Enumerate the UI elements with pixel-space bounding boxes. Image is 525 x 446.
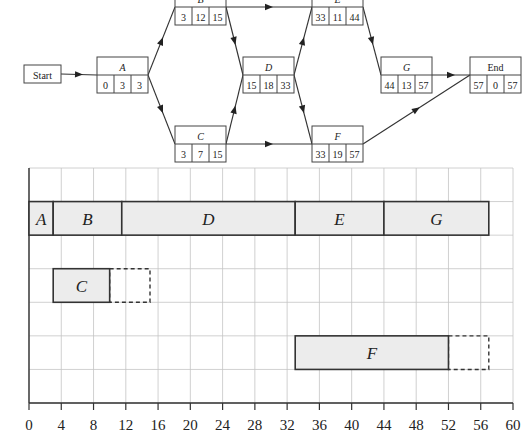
node-es: 44: [385, 80, 395, 91]
edge-G-End: [432, 72, 470, 78]
arrowhead-icon: [157, 37, 163, 46]
node-label: End: [487, 62, 503, 73]
start-node: Start: [24, 65, 61, 83]
x-tick-label: 28: [247, 417, 262, 433]
edge-D-F: [294, 75, 312, 144]
gantt-bar-C: C: [53, 269, 150, 303]
node-ef: 15: [213, 149, 223, 160]
x-tick-label: 0: [25, 417, 33, 433]
svg-text:Start: Start: [33, 70, 52, 81]
gantt-bar-G: G: [384, 202, 489, 236]
node-ef: 57: [419, 80, 429, 91]
x-tick-label: 20: [183, 417, 198, 433]
edge-C-F: [226, 141, 312, 147]
x-tick-label: 16: [151, 417, 167, 433]
node-dur: 11: [333, 12, 343, 23]
node-ef: 15: [213, 12, 223, 23]
bar-label: B: [82, 210, 93, 229]
x-tick-label: 32: [280, 417, 295, 433]
edge-Start-A: [61, 71, 97, 77]
node-label: B: [197, 0, 203, 5]
node-label: F: [333, 131, 341, 142]
activity-node-D: D151833: [243, 57, 294, 93]
bar-label: D: [201, 210, 215, 229]
x-axis: 04812162024283236404448525660: [25, 403, 520, 433]
node-dur: 13: [402, 80, 412, 91]
x-tick-label: 44: [376, 417, 392, 433]
node-es: 57: [474, 80, 484, 91]
arrowhead-icon: [299, 37, 305, 46]
node-label: E: [333, 0, 340, 5]
arrowhead-icon: [299, 105, 305, 114]
x-tick-label: 56: [473, 417, 489, 433]
x-tick-label: 48: [409, 417, 424, 433]
activity-node-End: End57057: [470, 57, 521, 93]
pert-gantt-figure: StartA033B31215C3715D151833E331144F33195…: [0, 0, 525, 446]
x-tick-label: 12: [118, 417, 133, 433]
node-dur: 3: [120, 80, 125, 91]
arrowhead-icon: [230, 106, 236, 115]
activity-node-B: B31215: [175, 0, 226, 25]
node-ef: 33: [281, 80, 291, 91]
gantt-bar-A: A: [29, 202, 53, 236]
arrowhead-icon: [265, 4, 273, 10]
arrowhead-icon: [157, 105, 163, 114]
bar-label: F: [366, 344, 378, 363]
activity-node-C: C3715: [175, 126, 226, 162]
node-dur: 0: [493, 80, 498, 91]
edge-B-D: [226, 7, 243, 75]
arrowhead-icon: [75, 71, 83, 77]
node-label: A: [118, 62, 126, 73]
node-ef: 44: [350, 12, 360, 23]
slack-region: [110, 269, 150, 303]
node-es: 33: [316, 149, 326, 160]
gantt-bar-F: F: [295, 336, 489, 370]
node-es: 3: [181, 149, 186, 160]
x-tick-label: 24: [215, 417, 231, 433]
node-label: C: [197, 131, 204, 142]
activity-node-A: A033: [97, 57, 148, 93]
edge-D-E: [294, 7, 312, 75]
bar-label: G: [430, 210, 442, 229]
x-tick-label: 4: [58, 417, 66, 433]
x-tick-label: 60: [506, 417, 521, 433]
node-es: 15: [247, 80, 257, 91]
activity-node-G: G441357: [381, 57, 432, 93]
edge-A-B: [148, 7, 175, 75]
arrowhead-icon: [265, 141, 273, 147]
activity-node-F: F331957: [312, 126, 363, 162]
bar-label: C: [76, 277, 88, 296]
node-label: D: [264, 62, 273, 73]
x-tick-label: 40: [344, 417, 359, 433]
x-tick-label: 8: [90, 417, 98, 433]
gantt-chart: ABDEGCF04812162024283236404448525660: [25, 168, 520, 433]
edge-B-E: [226, 4, 312, 10]
bar-label: A: [35, 210, 47, 229]
node-dur: 18: [264, 80, 274, 91]
arrowhead-icon: [411, 107, 419, 114]
node-es: 33: [316, 12, 326, 23]
node-label: G: [403, 62, 410, 73]
gantt-bar-E: E: [295, 202, 384, 236]
node-es: 3: [181, 12, 186, 23]
activity-node-E: E331144: [312, 0, 363, 25]
node-ef: 57: [350, 149, 360, 160]
edge-A-C: [148, 75, 175, 144]
gantt-bar-D: D: [122, 202, 295, 236]
node-dur: 12: [196, 12, 206, 23]
arrowhead-icon: [447, 72, 455, 78]
gantt-bar-B: B: [53, 202, 122, 236]
node-ef: 3: [137, 80, 142, 91]
slack-region: [448, 336, 488, 370]
x-tick-label: 36: [312, 417, 328, 433]
node-es: 0: [103, 80, 108, 91]
arrowhead-icon: [368, 36, 374, 45]
node-dur: 19: [333, 149, 343, 160]
bar-label: E: [333, 210, 345, 229]
node-dur: 7: [198, 149, 203, 160]
edge-C-D: [226, 75, 243, 144]
node-ef: 57: [508, 80, 518, 91]
edge-E-G: [363, 7, 381, 75]
activity-network: StartA033B31215C3715D151833E331144F33195…: [24, 0, 521, 162]
x-tick-label: 52: [441, 417, 456, 433]
